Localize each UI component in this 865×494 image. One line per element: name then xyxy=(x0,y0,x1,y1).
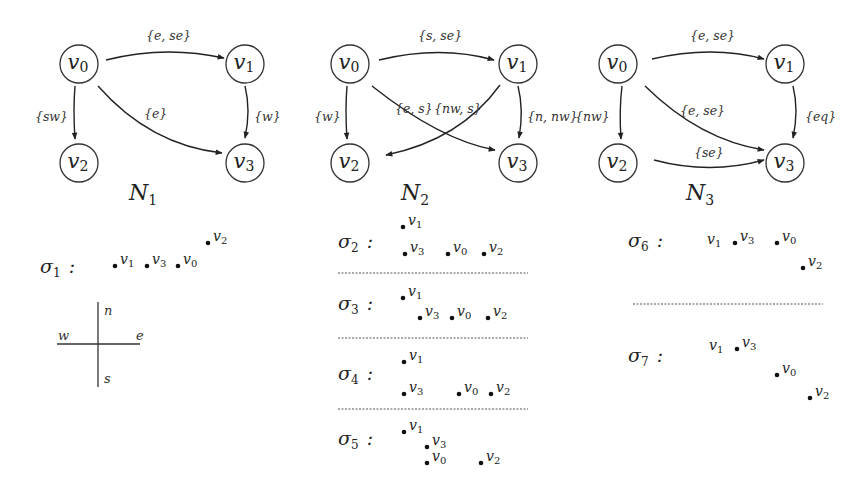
point-v2: v2 xyxy=(206,228,228,246)
point-dot xyxy=(402,360,407,365)
point-v1: v1 xyxy=(401,283,423,301)
point-label: v1 xyxy=(709,337,723,355)
point-dot xyxy=(206,241,211,246)
point-label: v3 xyxy=(409,379,423,397)
scenario-sigma5: σ5:v1v3v0v2 xyxy=(338,417,500,466)
point-label: v1 xyxy=(409,417,423,435)
point-label: v0 xyxy=(782,228,796,246)
edge-label-v1-v2: {nw, s} xyxy=(434,101,482,116)
scenario-sigma3: σ3:v1v3v0v2 xyxy=(338,283,507,321)
point-dot xyxy=(457,392,462,397)
edge-v1-v3 xyxy=(793,86,796,138)
edge-v0-v3 xyxy=(645,86,764,150)
network-label: N2 xyxy=(400,180,429,208)
scenario-label: σ1: xyxy=(40,255,75,280)
compass-north-label: n xyxy=(104,303,112,318)
edge-label-v0-v3: {e} xyxy=(144,106,167,121)
node-v2: v2 xyxy=(60,144,98,182)
network-N3: {e, se}{nw}{e, se}{eq}{se}v0v1v2v3N3 xyxy=(575,28,836,208)
point-label: v0 xyxy=(453,239,467,257)
point-label: v0 xyxy=(782,360,796,378)
edge-v0-v1 xyxy=(106,52,224,60)
node-v0: v0 xyxy=(331,45,369,83)
point-dot xyxy=(401,225,406,230)
point-v1: v1 xyxy=(709,337,723,355)
point-label: v2 xyxy=(496,379,510,397)
point-v3: v3 xyxy=(418,303,440,321)
point-dot xyxy=(489,392,494,397)
point-label: v1 xyxy=(408,283,422,301)
point-dot xyxy=(113,264,118,269)
network-label: N3 xyxy=(685,180,714,208)
point-label: v1 xyxy=(707,231,721,249)
point-v0: v0 xyxy=(176,251,198,269)
network-label: N1 xyxy=(128,180,157,208)
edge-label-v1-v3: {w} xyxy=(254,109,281,124)
edge-label-v0-v1: {s, se} xyxy=(418,28,462,43)
edge-label-v1-v3: {n, nw} xyxy=(527,109,578,124)
edge-label-v1-v3: {eq} xyxy=(805,109,836,124)
compass-south-label: s xyxy=(104,371,111,386)
scenario-label: σ4: xyxy=(338,362,373,387)
point-v0: v0 xyxy=(425,448,447,466)
edge-v1-v3 xyxy=(518,86,521,138)
point-v3: v3 xyxy=(735,334,757,352)
edge-label-v0-v2: {w} xyxy=(314,109,341,124)
scenario-label: σ2: xyxy=(338,230,373,255)
point-v2: v2 xyxy=(808,383,830,401)
point-v3: v3 xyxy=(145,251,167,269)
point-dot xyxy=(486,316,491,321)
edge-label-v0-v2: {nw} xyxy=(575,109,610,124)
point-label: v2 xyxy=(489,239,503,257)
point-dot xyxy=(735,347,740,352)
point-v2: v2 xyxy=(801,253,823,271)
edge-v0-v2 xyxy=(346,86,347,139)
edge-v1-v2 xyxy=(386,85,500,155)
edge-v2-v3 xyxy=(654,160,764,168)
point-v2: v2 xyxy=(486,303,508,321)
point-label: v0 xyxy=(464,379,478,397)
point-label: v2 xyxy=(213,228,227,246)
point-dot xyxy=(775,373,780,378)
point-dot xyxy=(733,241,738,246)
networks-layer: {e, se}{sw}{e}{w}v0v1v2v3N1{s, se}{w}{e,… xyxy=(35,28,836,208)
point-label: v0 xyxy=(457,303,471,321)
point-dot xyxy=(425,461,430,466)
point-label: v2 xyxy=(486,448,500,466)
scenario-sigma2: σ2:v1v3v0v2 xyxy=(338,212,503,257)
point-v2: v2 xyxy=(482,239,504,257)
network-N1: {e, se}{sw}{e}{w}v0v1v2v3N1 xyxy=(35,28,281,208)
point-v1: v1 xyxy=(113,251,135,269)
qualitative-constraint-networks-figure: {e, se}{sw}{e}{w}v0v1v2v3N1{s, se}{w}{e,… xyxy=(0,0,865,494)
scenario-label: σ6: xyxy=(628,229,663,254)
scenarios-layer: σ1:v1v3v0v2σ2:v1v3v0v2σ3:v1v3v0v2σ4:v1v3… xyxy=(40,212,829,466)
point-label: v1 xyxy=(408,212,422,230)
point-v0: v0 xyxy=(775,360,797,378)
node-v1: v1 xyxy=(499,45,537,83)
point-dot xyxy=(403,252,408,257)
point-v3: v3 xyxy=(402,379,424,397)
edge-label-v0-v3: {e, se} xyxy=(680,103,725,118)
scenario-sigma4: σ4:v1v3v0v2 xyxy=(338,347,510,397)
point-dot xyxy=(482,252,487,257)
point-v0: v0 xyxy=(457,379,479,397)
node-v3: v3 xyxy=(499,144,537,182)
point-v0: v0 xyxy=(775,228,797,246)
point-dot xyxy=(418,316,423,321)
edge-label-v0-v1: {e, se} xyxy=(690,28,735,43)
node-v3: v3 xyxy=(226,144,264,182)
edge-label-v0-v2: {sw} xyxy=(35,109,68,124)
point-dot xyxy=(401,296,406,301)
point-dot xyxy=(775,241,780,246)
point-dot xyxy=(450,316,455,321)
point-dot xyxy=(145,264,150,269)
point-dot xyxy=(808,396,813,401)
scenario-label: σ5: xyxy=(338,427,373,452)
point-v2: v2 xyxy=(489,379,511,397)
node-v1: v1 xyxy=(766,45,804,83)
point-label: v1 xyxy=(120,251,134,269)
point-v1: v1 xyxy=(402,347,424,365)
compass-legend: n s e w xyxy=(57,302,144,387)
edge-label-v0-v1: {e, se} xyxy=(146,28,191,43)
compass-east-label: e xyxy=(136,328,144,343)
